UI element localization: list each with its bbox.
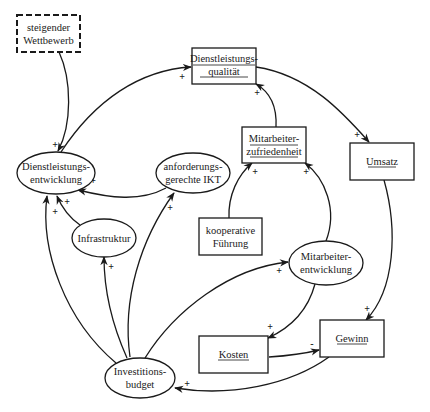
sign-infrastruktur-dl-entwicklung: + (64, 196, 70, 207)
edge-ma-entwicklung-to-kosten (268, 284, 315, 338)
edge-ikt-to-dl-entwicklung (78, 188, 166, 197)
edge-dl-entwicklung-to-dl-qualitaet (61, 67, 191, 152)
edge-wettbewerb-to-dl-entwicklung (58, 52, 69, 151)
node-dienstleistungsentwicklung: Dienstleistungs- entwicklung (17, 152, 95, 194)
node-label: Umsatz (366, 156, 398, 167)
causal-loop-diagram: + + + + + + + + + + + + + + - + steigend… (0, 0, 430, 412)
sign-dl-entwicklung-dl-qualitaet: + (179, 71, 185, 82)
node-anforderungsgerechte-ikt: anforderungs- gerechte IKT (156, 153, 230, 193)
sign-budget-ikt: + (167, 202, 173, 213)
node-label: Kosten (219, 349, 249, 360)
sign-dl-qualitaet-umsatz: + (354, 129, 360, 140)
node-steigender-wettbewerb: steigender Wettbewerb (17, 15, 80, 52)
node-label: Infrastruktur (77, 233, 131, 244)
node-label-line1: steigender (27, 22, 71, 33)
node-dienstleistungsqualitaet: Dienstleistungs- qualität (190, 48, 259, 84)
node-label-line1: Dienstleistungs- (190, 53, 259, 64)
node-label-line2: Führung (213, 238, 249, 249)
sign-ma-zufriedenheit-dl-qualitaet: + (254, 87, 260, 98)
node-label-line1: Investitions- (114, 366, 167, 377)
node-label-line2: budget (126, 379, 155, 390)
node-investitionsbudget: Investitions- budget (105, 358, 175, 398)
sign-wettbewerb-dl-entwicklung: + (52, 139, 58, 150)
edge-kosten-to-gewinn (269, 350, 319, 357)
sign-kosten-gewinn: - (310, 338, 313, 349)
sign-ma-entwicklung-kosten: + (267, 321, 273, 332)
node-kosten: Kosten (199, 336, 268, 373)
node-label-line2: zufriedenheit (246, 146, 301, 157)
sign-budget-infrastruktur: + (108, 261, 114, 272)
node-kooperative-fuehrung: kooperative Führung (199, 218, 262, 255)
node-label-line2: entwicklung (300, 264, 353, 275)
sign-budget-ma-entwicklung: + (276, 265, 282, 276)
edge-umsatz-to-gewinn (366, 180, 392, 320)
edge-budget-to-infrastruktur (104, 257, 127, 358)
node-mitarbeiterentwicklung: Mitarbeiter- entwicklung (289, 241, 363, 285)
node-label-line1: Mitarbeiter- (301, 251, 352, 262)
node-umsatz: Umsatz (350, 143, 414, 180)
sign-fuehrung-ma-zufriedenheit: + (252, 166, 258, 177)
edge-fuehrung-to-ma-zufriedenheit (229, 163, 252, 218)
node-label-line2: Wettbewerb (23, 35, 73, 46)
node-mitarbeiterzufriedenheit: Mitarbeiter- zufriedenheit (242, 127, 306, 163)
node-label-line1: anforderungs- (164, 161, 223, 172)
node-label-line1: Mitarbeiter- (249, 133, 300, 144)
sign-umsatz-gewinn: + (364, 303, 370, 314)
node-label-line2: qualität (208, 66, 240, 77)
node-label-line2: gerechte IKT (165, 174, 221, 185)
node-infrastruktur: Infrastruktur (72, 219, 136, 257)
node-label-line1: kooperative (206, 225, 256, 236)
sign-gewinn-budget: + (184, 378, 190, 389)
node-label: Gewinn (335, 333, 369, 344)
sign-budget-dl-entwicklung: + (52, 206, 58, 217)
node-label-line2: entwicklung (30, 174, 83, 185)
edge-budget-to-ikt (128, 193, 174, 357)
node-label-line1: Dienstleistungs- (22, 161, 91, 172)
sign-ma-entwicklung-ma-zufriedenheit: + (303, 166, 309, 177)
node-gewinn: Gewinn (320, 320, 384, 357)
